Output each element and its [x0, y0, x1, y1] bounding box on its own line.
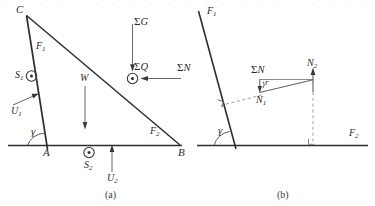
diagram-a-S2-roller-center [88, 151, 91, 154]
diagram-a-label-sum-Q: ΣQ [134, 61, 148, 73]
diagram-a-label-W: W [80, 73, 88, 83]
diagram-a-label-sum-G: ΣG [134, 16, 148, 28]
diagram-a-label-U2-subscript: 2 [114, 177, 118, 185]
diagram-b-label-N1-subscript: 1 [263, 99, 267, 107]
diagram-a-label-F1: F1 [36, 41, 46, 53]
diagram-b-caption: (b) [277, 189, 289, 200]
diagram-b-label-sum-N: ΣN [251, 64, 264, 76]
diagram-a-sum-G-variable: G [140, 16, 148, 27]
diagram-a-label-U1: U1 [11, 106, 22, 118]
diagram-a-label-S1-subscript: 1 [20, 74, 24, 82]
diagram-b-right-angle-mark-slant [218, 100, 224, 108]
diagram-a-label-sum-N: ΣN [177, 62, 190, 74]
diagram-b-label-r: r [265, 78, 269, 87]
diagram-a-label-F2-subscript: 2 [156, 130, 160, 138]
diagram-a-label-A: A [43, 147, 50, 158]
diagram-a-sumN-arrow-head [141, 76, 149, 81]
diagram-a-Q-roller-center [131, 77, 134, 80]
figure-vector-graphics [0, 0, 375, 206]
diagram-a-sum-Q-variable: Q [140, 61, 148, 72]
diagram-b-label-N2: N2 [307, 58, 317, 70]
diagram-b-geometry [197, 11, 368, 149]
diagram-a-label-S2: S2 [84, 160, 93, 172]
diagram-a-label-S2-subscript: 2 [89, 164, 93, 172]
diagram-a-W-arrow-head [83, 122, 88, 130]
diagram-b-label-F1: F1 [207, 6, 217, 18]
diagram-b-sum-N-variable: N [257, 64, 264, 75]
diagram-a-label-U1-subscript: 1 [18, 110, 22, 118]
diagram-a-label-gamma: γ [31, 126, 35, 137]
diagram-a-U1-arrow-head [32, 94, 39, 99]
diagram-b-label-F1-subscript: 1 [213, 10, 217, 18]
diagram-a-label-U2: U2 [107, 173, 118, 185]
diagram-b-label-F2-subscript: 2 [355, 132, 359, 140]
diagram-a-label-B: B [178, 147, 185, 158]
diagram-a-label-F1-subscript: 1 [42, 45, 46, 53]
diagram-b-angle-r-arc [263, 82, 264, 89]
diagram-b-label-N1: N1 [256, 95, 266, 107]
diagram-b-label-N2-letter: N [307, 57, 314, 68]
diagram-a-caption: (a) [105, 189, 116, 200]
diagram-b-label-N2-subscript: 2 [314, 62, 318, 70]
diagram-a-sum-N-variable: N [183, 62, 190, 73]
diagram-a-edge-CA [27, 16, 48, 150]
diagram-a-S1-roller-center [30, 75, 33, 78]
diagram-a-label-S1: S1 [15, 70, 24, 82]
diagram-b-label-N1-letter: N [256, 94, 263, 105]
diagram-a-label-F2: F2 [150, 126, 160, 138]
figure-canvas: ▫‒▫▫‒▫▫‒▫▫‒▫▫‒▫▫‒▫▫‒▫ [0, 0, 375, 206]
diagram-b-label-gamma: γ [218, 125, 222, 136]
diagram-a-label-C: C [16, 4, 23, 15]
diagram-a-geometry [8, 16, 182, 173]
diagram-b-label-F2: F2 [349, 128, 359, 140]
